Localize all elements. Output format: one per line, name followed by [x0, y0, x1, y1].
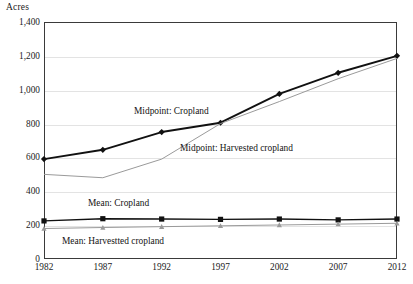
- gridline: [45, 91, 396, 92]
- gridline: [45, 125, 396, 126]
- gridline: [45, 192, 396, 193]
- x-axis-tick-label: 1997: [211, 262, 230, 272]
- series-annotation-label: Midpoint: Cropland: [134, 106, 209, 116]
- y-axis-tick-label: 400: [0, 186, 40, 196]
- series-annotation-label: Mean: Cropland: [88, 198, 149, 208]
- gridline: [45, 57, 396, 58]
- y-axis-tick-labels: 02004006008001,0001,2001,400: [0, 0, 40, 284]
- x-axis-tick-label: 2012: [388, 262, 407, 272]
- x-axis-tick-label: 2007: [329, 262, 348, 272]
- series-annotation-label: Midpoint: Harvested cropland: [180, 143, 293, 153]
- x-axis-tick-label: 2002: [270, 262, 289, 272]
- gridline: [45, 226, 396, 227]
- y-axis-tick-label: 1,400: [0, 17, 40, 27]
- x-axis-tick-label: 1992: [152, 262, 171, 272]
- y-axis-tick-label: 1,200: [0, 51, 40, 61]
- y-axis-tick-label: 1,000: [0, 85, 40, 95]
- y-axis-tick-label: 200: [0, 220, 40, 230]
- x-axis-tick-label: 1982: [35, 262, 54, 272]
- y-axis-tick-label: 600: [0, 152, 40, 162]
- series-annotation-label: Mean: Harvestted cropland: [62, 236, 164, 246]
- gridline: [45, 158, 396, 159]
- acres-line-chart: Acres 02004006008001,0001,2001,400 19821…: [0, 0, 413, 284]
- x-axis-tick-label: 1987: [94, 262, 113, 272]
- y-axis-tick-label: 800: [0, 119, 40, 129]
- plot-area: [44, 22, 397, 259]
